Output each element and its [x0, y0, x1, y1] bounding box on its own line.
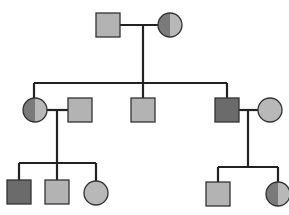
pedigree-chart: [0, 0, 289, 215]
generation-1: [96, 13, 182, 83]
male-unaffected-III-2: [45, 180, 69, 204]
male-unaffected-III-4: [206, 182, 230, 206]
female-carrier-I-2: [158, 13, 182, 37]
female-unaffected-II-5: [258, 98, 282, 122]
generation-3: [7, 180, 289, 206]
female-carrier-III-5: [266, 182, 289, 206]
female-unaffected-III-3: [84, 181, 108, 205]
male-unaffected-II-3: [131, 98, 155, 122]
male-unaffected-I-1: [96, 13, 120, 37]
female-carrier-II-1: [23, 98, 47, 122]
male-unaffected-II-2: [68, 98, 92, 122]
male-affected-III-1: [7, 180, 31, 204]
generation-2: [23, 98, 282, 167]
male-affected-II-4: [215, 98, 239, 122]
